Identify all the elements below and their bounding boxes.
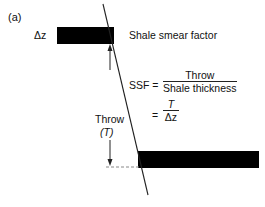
equals-sign: = [152, 110, 158, 121]
symbolic-numerator: T [168, 98, 174, 110]
throw-arrow-down-icon [108, 140, 113, 166]
symbolic-denominator: Δz [165, 111, 177, 123]
ssf-lhs: SSF = [129, 80, 158, 91]
ssf-fraction-symbolic: T Δz [163, 98, 179, 123]
figure-title: Shale smear factor [129, 30, 217, 41]
throw-label: Throw [95, 114, 124, 125]
ssf-numerator: Throw [185, 69, 214, 81]
delta-z-label: Δz [34, 30, 46, 41]
ssf-denominator: Shale thickness [163, 82, 237, 94]
panel-label: (a) [8, 12, 21, 23]
throw-arrow-up-icon [108, 44, 113, 70]
throw-symbol: (T) [100, 127, 113, 138]
upper-shale-bed [57, 27, 114, 44]
lower-shale-bed [138, 151, 259, 168]
ssf-fraction: Throw Shale thickness [163, 69, 237, 94]
